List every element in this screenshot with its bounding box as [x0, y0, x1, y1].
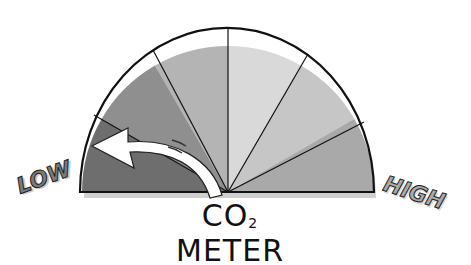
- low-label: LOW LOW: [13, 155, 79, 201]
- gauge-title: CO2 METER: [150, 198, 310, 265]
- high-label: HIGH HIGH: [380, 171, 450, 217]
